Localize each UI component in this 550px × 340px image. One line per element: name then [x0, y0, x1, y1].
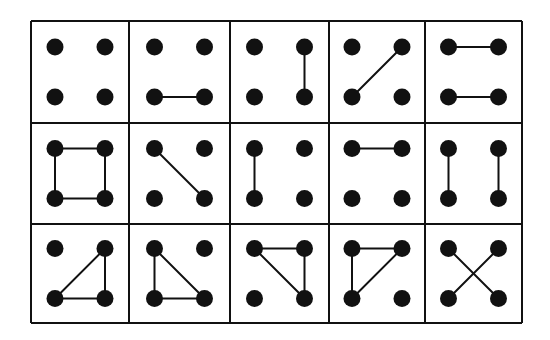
vertex-BL — [47, 290, 64, 307]
graph-cells — [47, 39, 508, 308]
vertex-TL — [344, 240, 361, 257]
graph-cell-r1-c0 — [47, 140, 114, 207]
vertex-TL — [344, 39, 361, 56]
vertex-TR — [97, 39, 114, 56]
graph-grid-diagram — [0, 0, 550, 340]
vertex-TR — [296, 39, 313, 56]
vertex-TL — [344, 140, 361, 157]
edge-TR-BL — [55, 249, 105, 299]
vertex-BL — [47, 89, 64, 106]
vertex-BL — [146, 89, 163, 106]
vertex-TL — [146, 39, 163, 56]
vertex-BR — [490, 290, 507, 307]
edge-TL-BR — [155, 149, 205, 199]
vertex-BL — [440, 290, 457, 307]
vertex-TR — [296, 240, 313, 257]
graph-cell-r2-c3 — [344, 240, 411, 307]
vertex-BR — [490, 190, 507, 207]
vertex-BR — [97, 290, 114, 307]
vertex-TR — [490, 39, 507, 56]
vertex-TR — [394, 240, 411, 257]
vertex-BR — [196, 190, 213, 207]
vertex-BR — [394, 89, 411, 106]
vertex-BL — [344, 290, 361, 307]
vertex-TL — [47, 39, 64, 56]
vertex-BR — [394, 190, 411, 207]
vertex-TL — [47, 240, 64, 257]
vertex-TR — [97, 240, 114, 257]
graph-cell-r1-c3 — [344, 140, 411, 207]
graph-cell-r1-c1 — [146, 140, 213, 207]
graph-cell-r0-c4 — [440, 39, 507, 106]
vertex-BL — [146, 290, 163, 307]
vertex-TR — [394, 39, 411, 56]
vertex-BR — [296, 190, 313, 207]
graph-cell-r0-c2 — [246, 39, 313, 106]
vertex-TR — [196, 240, 213, 257]
vertex-BL — [440, 190, 457, 207]
graph-cell-r0-c3 — [344, 39, 411, 106]
vertex-BL — [344, 89, 361, 106]
edge-TL-BR — [155, 249, 205, 299]
vertex-TL — [246, 140, 263, 157]
vertex-BR — [296, 290, 313, 307]
vertex-TR — [196, 140, 213, 157]
vertex-TL — [440, 240, 457, 257]
vertex-BL — [246, 290, 263, 307]
vertex-BL — [246, 89, 263, 106]
vertex-BR — [97, 190, 114, 207]
vertex-BR — [296, 89, 313, 106]
graph-cell-r0-c0 — [47, 39, 114, 106]
vertex-BL — [440, 89, 457, 106]
graph-cell-r1-c2 — [246, 140, 313, 207]
vertex-BL — [47, 190, 64, 207]
vertex-TL — [47, 140, 64, 157]
graph-cell-r2-c2 — [246, 240, 313, 307]
vertex-TL — [146, 140, 163, 157]
edge-BL-TR — [352, 47, 402, 97]
vertex-TL — [246, 240, 263, 257]
vertex-BL — [344, 190, 361, 207]
vertex-BR — [490, 89, 507, 106]
graph-cell-r0-c1 — [146, 39, 213, 106]
vertex-TR — [394, 140, 411, 157]
graph-cell-r2-c1 — [146, 240, 213, 307]
vertex-TL — [246, 39, 263, 56]
vertex-TR — [490, 240, 507, 257]
edge-TR-BL — [352, 249, 402, 299]
vertex-TL — [146, 240, 163, 257]
vertex-BR — [196, 89, 213, 106]
graph-cell-r1-c4 — [440, 140, 507, 207]
graph-cell-r2-c4 — [440, 240, 507, 307]
vertex-TL — [440, 39, 457, 56]
vertex-TR — [97, 140, 114, 157]
vertex-TR — [490, 140, 507, 157]
vertex-BL — [146, 190, 163, 207]
vertex-TR — [296, 140, 313, 157]
graph-cell-r2-c0 — [47, 240, 114, 307]
vertex-TR — [196, 39, 213, 56]
vertex-BR — [196, 290, 213, 307]
vertex-TL — [440, 140, 457, 157]
vertex-BL — [246, 190, 263, 207]
vertex-BR — [394, 290, 411, 307]
vertex-BR — [97, 89, 114, 106]
edge-TL-BR — [255, 249, 305, 299]
